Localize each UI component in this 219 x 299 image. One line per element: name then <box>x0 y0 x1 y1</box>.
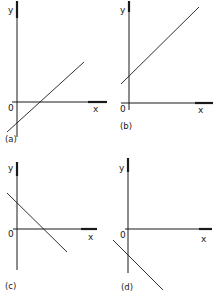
origin-label: 0 <box>120 104 126 114</box>
origin-label: 0 <box>8 229 14 239</box>
y-axis-label: y <box>120 5 126 15</box>
x-axis-label: x <box>201 234 207 244</box>
plot-line <box>121 7 199 84</box>
panel-c: y 0 x (c) <box>5 162 97 291</box>
panel-caption: (d) <box>121 282 133 292</box>
origin-label: 0 <box>120 230 126 240</box>
panel-caption: (b) <box>120 121 132 131</box>
panel-a: y 0 x (a) <box>5 1 107 144</box>
x-axis-label: x <box>88 232 94 242</box>
plot-line <box>7 193 67 252</box>
panel-caption: (a) <box>5 134 17 144</box>
panel-caption: (c) <box>5 281 16 291</box>
y-axis-label: y <box>8 163 14 173</box>
y-axis-label: y <box>8 5 14 15</box>
x-axis-label: x <box>93 104 99 114</box>
origin-label: 0 <box>8 103 14 113</box>
panel-d: y 0 x (d) <box>113 158 212 292</box>
line-graphs-figure: y 0 x (a) y 0 x (b) y 0 x (c) y 0 x <box>0 0 219 299</box>
x-axis-label: x <box>198 105 204 115</box>
y-axis-label: y <box>119 163 125 173</box>
plot-line <box>7 62 84 132</box>
panel-b: y 0 x (b) <box>120 1 213 131</box>
